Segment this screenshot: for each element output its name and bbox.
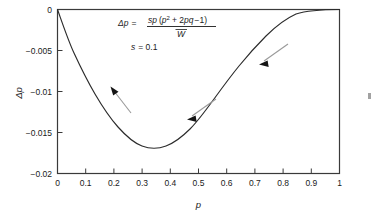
x-tick-label: 0.8 (277, 178, 289, 188)
y-tick-label: −0.02 (30, 169, 52, 179)
plot-frame (58, 10, 340, 174)
x-tick-label: 0 (55, 178, 60, 188)
x-tick-label: 0.3 (136, 178, 148, 188)
x-tick-label: 0.6 (221, 178, 233, 188)
arrow-right-branch (259, 44, 288, 67)
equation-annotation: Δp= sp(p2+ 2pq−1) W s= 0.1 (117, 15, 216, 52)
equation-numerator: sp(p2+ 2pq−1) (148, 15, 207, 25)
data-curve (58, 10, 340, 149)
x-tick-label: 0.1 (80, 178, 92, 188)
x-tick-labels: 0 0.1 0.2 0.3 0.4 0.5 0.6 0.7 0.8 0.9 1 (55, 178, 342, 188)
y-axis-ticks (58, 10, 63, 174)
x-tick-label: 0.9 (305, 178, 317, 188)
x-tick-label: 0.2 (108, 178, 120, 188)
y-tick-label: −0.01 (30, 87, 52, 97)
page-edge-artifact (368, 93, 371, 99)
arrow-mid-branch (187, 99, 216, 122)
y-tick-labels: 0 −0.005 −0.01 −0.015 −0.02 (26, 5, 53, 179)
y-axis-title: Δp (13, 87, 24, 100)
y-tick-label: −0.005 (26, 46, 53, 56)
x-axis-ticks (58, 169, 340, 174)
x-tick-label: 1 (337, 178, 342, 188)
y-tick-label: 0 (47, 5, 52, 15)
x-axis-title: p (195, 199, 201, 210)
equation-lhs: Δp= (117, 18, 136, 28)
equation-denominator: W (177, 29, 186, 39)
x-tick-label: 0.5 (193, 178, 205, 188)
chart-figure: 0 −0.005 −0.01 −0.015 −0.02 0 0.1 0.2 0.… (0, 0, 383, 224)
y-tick-label: −0.015 (26, 128, 53, 138)
parameter-annotation: s= 0.1 (131, 42, 158, 52)
x-tick-label: 0.7 (249, 178, 261, 188)
x-tick-label: 0.4 (164, 178, 176, 188)
arrow-left-branch (111, 87, 132, 114)
